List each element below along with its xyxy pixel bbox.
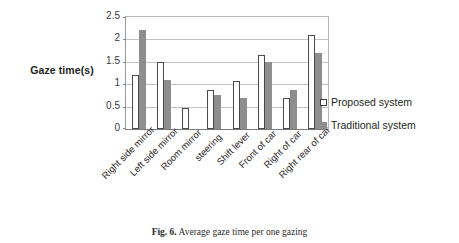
- bar-group: [252, 17, 277, 129]
- bar: [290, 90, 297, 129]
- figure-caption-label: Fig. 6.: [152, 227, 177, 237]
- bar: [233, 81, 240, 129]
- y-axis-tick-label: 2: [96, 33, 120, 43]
- chart-legend: Proposed system Traditional system: [320, 96, 452, 142]
- bar-group: [227, 17, 252, 129]
- bar: [308, 35, 315, 129]
- bar-group: [202, 17, 227, 129]
- figure-average-gaze-time: Gaze time(s) 00.511.522.5 Right side mir…: [0, 0, 459, 243]
- x-axis-category-labels: Right side mirrorLeft side mirrorRoom mi…: [96, 136, 358, 216]
- y-axis-tick-label: 2.5: [96, 11, 120, 21]
- bar: [283, 98, 290, 129]
- figure-caption-text: Average gaze time per one gazing: [177, 227, 308, 237]
- chart-plot-wrapper: 00.511.522.5: [96, 10, 356, 136]
- legend-label-proposed-system: Proposed system: [331, 96, 412, 108]
- y-axis-tick-label: 1.5: [96, 56, 120, 66]
- bar: [132, 75, 139, 129]
- bar: [214, 95, 221, 129]
- legend-swatch-open-square-icon: [320, 99, 327, 106]
- bar: [258, 55, 265, 129]
- bar: [240, 98, 247, 129]
- y-axis-tick-label: 0: [96, 123, 120, 133]
- legend-label-traditional-system: Traditional system: [331, 119, 416, 131]
- legend-swatch-filled-square-icon: [320, 122, 327, 129]
- bar-group: [126, 17, 151, 129]
- bar-group: [278, 17, 303, 129]
- y-axis-tick-labels: 00.511.522.5: [96, 10, 120, 136]
- bar-group: [151, 17, 176, 129]
- bar: [164, 80, 171, 129]
- bar: [207, 90, 214, 129]
- bar-series-container: [126, 17, 328, 129]
- legend-item-traditional-system: Traditional system: [320, 119, 452, 131]
- bar: [182, 108, 189, 129]
- bar: [265, 62, 272, 129]
- plot-area: [125, 16, 329, 130]
- figure-caption: Fig. 6. Average gaze time per one gazing: [0, 227, 459, 237]
- y-axis-tick-label: 1: [96, 78, 120, 88]
- bar: [139, 30, 146, 129]
- y-axis-tick-label: 0.5: [96, 101, 120, 111]
- legend-item-proposed-system: Proposed system: [320, 96, 452, 108]
- bar-group: [177, 17, 202, 129]
- bar: [157, 62, 164, 129]
